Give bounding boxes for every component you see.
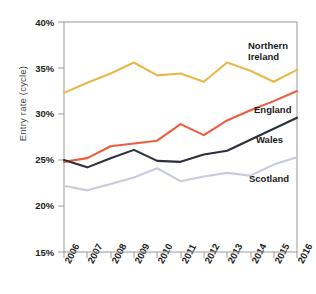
series-line-england (64, 91, 297, 162)
series-label-northern-ireland-line2: Ireland (248, 51, 279, 62)
y-axis-ticks (58, 22, 64, 252)
x-axis-ticks (64, 252, 297, 258)
series-label-scotland: Scotland (249, 174, 289, 185)
series-label-wales: Wales (256, 135, 283, 146)
series-line-northern-ireland (64, 62, 297, 92)
series-label-northern-ireland-line1: Northern (248, 40, 288, 51)
series-label-england: England (254, 105, 291, 116)
line-chart: Entry rate (cycle) 40% 35% 30% 25% 20% 1… (0, 0, 316, 294)
series-label-northern-ireland: Northern Ireland (248, 41, 296, 62)
series-lines (64, 62, 297, 190)
